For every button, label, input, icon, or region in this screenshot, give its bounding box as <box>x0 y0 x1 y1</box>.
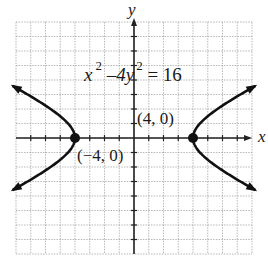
equation-x: x <box>84 64 92 85</box>
vertex-right-label: (4, 0) <box>137 110 174 127</box>
equation-4y: 4y <box>116 64 134 85</box>
axes <box>16 18 252 254</box>
y-axis-label: y <box>128 1 136 18</box>
equation-minus: – <box>107 64 117 85</box>
equation-rhs: = 16 <box>147 64 181 85</box>
vertex-left-label: (−4, 0) <box>77 147 123 164</box>
equation-label: x2 –4y2 = 16 <box>84 63 182 84</box>
hyperbola-plot <box>0 0 268 259</box>
x-axis-label: x <box>258 128 266 145</box>
equation-exp1: 2 <box>95 58 102 73</box>
equation-exp2: 2 <box>136 58 143 73</box>
